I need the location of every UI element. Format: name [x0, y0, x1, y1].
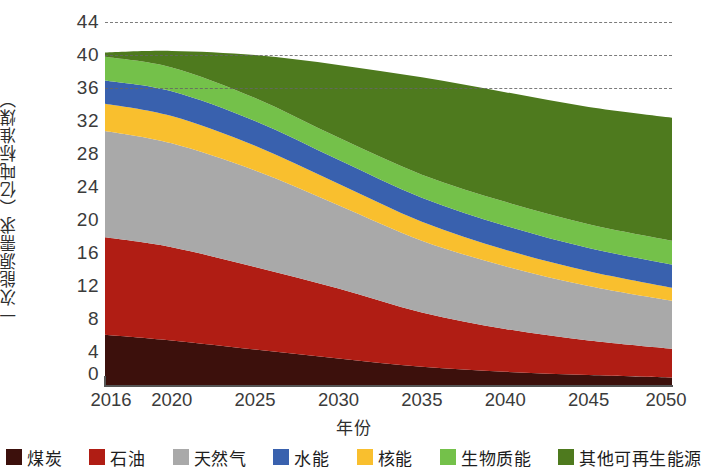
gridline: [105, 55, 672, 56]
y-tick-label: 8: [88, 308, 99, 330]
gridline: [105, 22, 672, 23]
legend-swatch-icon: [558, 449, 574, 465]
gridline: [105, 88, 672, 89]
legend-label: 生物质能: [461, 445, 531, 470]
legend-swatch-icon: [273, 449, 289, 465]
legend-item[interactable]: 核能: [357, 445, 413, 470]
x-tick-label: 2045: [568, 389, 609, 411]
stacked-area-series: [105, 8, 672, 385]
y-tick-label: 36: [77, 77, 99, 99]
legend-item[interactable]: 水能: [273, 445, 329, 470]
y-tick-label: 28: [77, 143, 99, 165]
x-tick-label: 2035: [401, 389, 442, 411]
y-tick-label: 32: [77, 110, 99, 132]
y-tick-label: 44: [77, 11, 99, 33]
x-axis-ticks: 20162020202520302035204020452050: [0, 389, 708, 415]
legend-item[interactable]: 天然气: [173, 445, 247, 470]
x-tick-label: 2016: [90, 389, 131, 411]
legend-swatch-icon: [440, 449, 456, 465]
legend-item[interactable]: 石油: [89, 445, 145, 470]
legend-label: 水能: [294, 445, 329, 470]
legend-item[interactable]: 其他可再生能源: [558, 445, 702, 470]
y-axis-line: [104, 376, 106, 386]
legend-item[interactable]: 生物质能: [440, 445, 531, 470]
x-tick-label: 2020: [151, 389, 192, 411]
y-tick-label: 12: [77, 275, 99, 297]
plot-area: [105, 8, 672, 385]
x-axis-line: [104, 385, 673, 387]
legend-label: 其他可再生能源: [579, 445, 702, 470]
y-tick-label: 0: [88, 363, 99, 385]
legend-label: 石油: [110, 445, 145, 470]
legend-swatch-icon: [357, 449, 373, 465]
legend-item[interactable]: 煤炭: [6, 445, 62, 470]
legend-label: 核能: [378, 445, 413, 470]
x-tick-label: 2030: [318, 389, 359, 411]
y-tick-label: 40: [77, 44, 99, 66]
legend-label: 煤炭: [27, 445, 62, 470]
chart-root: 一次能源需求（亿吨标准煤） 444036322824201612840 2016…: [0, 0, 708, 472]
legend: 煤炭石油天然气水能核能生物质能其他可再生能源: [0, 444, 708, 470]
legend-swatch-icon: [6, 449, 22, 465]
x-axis-title: 年份: [0, 414, 708, 439]
y-tick-label: 24: [77, 176, 99, 198]
y-tick-label: 4: [88, 341, 99, 363]
x-tick-label: 2040: [485, 389, 526, 411]
y-tick-label: 16: [77, 242, 99, 264]
legend-label: 天然气: [194, 445, 247, 470]
y-tick-label: 20: [77, 209, 99, 231]
x-tick-label: 2050: [645, 389, 686, 411]
x-tick-label: 2025: [235, 389, 276, 411]
legend-swatch-icon: [173, 449, 189, 465]
legend-swatch-icon: [89, 449, 105, 465]
